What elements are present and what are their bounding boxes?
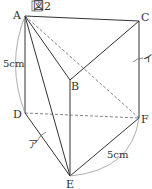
tick-i	[133, 58, 143, 62]
edge-df-dashed	[25, 113, 139, 118]
vertex-b-label: B	[71, 80, 79, 93]
prism-diagram: 図2 A C B D F E 5cm 5cm ア イ	[0, 0, 152, 189]
edge-bc	[70, 21, 139, 80]
vertex-e-label: E	[66, 178, 74, 189]
vertex-d-label: D	[13, 108, 22, 121]
length-ad-label: 5cm	[3, 58, 25, 69]
edge-ab	[25, 16, 70, 80]
vertex-c-label: C	[141, 11, 149, 24]
vertex-a-label: A	[12, 9, 22, 22]
length-ef-label: 5cm	[107, 149, 129, 160]
edge-ae	[25, 16, 70, 176]
label-a: ア	[28, 139, 38, 150]
vertex-f-label: F	[141, 113, 149, 126]
edge-af-dashed	[25, 16, 139, 118]
label-i: イ	[143, 53, 152, 64]
edge-ac	[25, 16, 139, 21]
